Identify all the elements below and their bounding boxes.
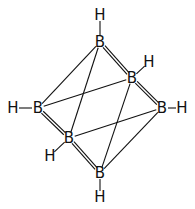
double-bond-b2-b4	[137, 81, 159, 103]
single-bond-b5-b4	[75, 110, 157, 136]
molecule-diagram: BBBBBBHHHHHH	[0, 0, 195, 209]
single-bond-b3-b2	[44, 80, 127, 106]
atom-label-b2: B	[127, 69, 137, 87]
atom-layer: BBBBBBHHHHHH	[7, 6, 187, 206]
atom-label-b6: B	[95, 164, 105, 182]
atom-label-b5: B	[64, 129, 74, 147]
double-bond-b2-b4	[135, 83, 157, 105]
atom-label-b4: B	[157, 99, 167, 117]
double-bond-b3-b5	[41, 113, 63, 135]
single-bond-b4-b6	[104, 112, 158, 168]
atom-label-h1: H	[94, 6, 105, 24]
double-bond-b1-b2	[105, 46, 129, 73]
single-bond-b1-b3	[42, 46, 96, 103]
atom-label-b1: B	[95, 33, 105, 51]
atom-label-h4: H	[176, 99, 187, 117]
atom-label-b3: B	[33, 99, 43, 117]
atom-label-h3: H	[7, 99, 18, 117]
atom-label-h2: H	[143, 53, 154, 71]
double-bond-b5-b6	[74, 142, 97, 168]
double-bond-b5-b6	[72, 143, 95, 169]
atom-label-h5: H	[44, 147, 55, 165]
double-bond-b3-b5	[43, 111, 65, 133]
double-bond-b1-b2	[103, 47, 127, 74]
atom-label-h6: H	[94, 188, 105, 206]
